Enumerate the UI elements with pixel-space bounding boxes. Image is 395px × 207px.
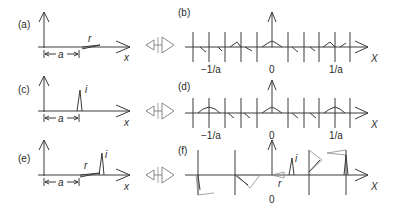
tick-pos-label: 1/a (329, 130, 343, 141)
panel-d-label: (d) (178, 81, 190, 92)
panel-d: (d) −1/a 0 1/a X (178, 80, 378, 141)
i-label: i (105, 149, 108, 160)
a-label: a (58, 49, 64, 60)
fourier-transform-pair-icon (146, 103, 174, 119)
panel-b: (b) −1/a 0 1/a X (178, 7, 378, 75)
x-label: x (123, 181, 130, 192)
r-label: r (88, 33, 92, 44)
x-label: x (123, 117, 130, 128)
panel-f: (f) r i 0 X (178, 140, 378, 205)
panel-e: (e) r i a x (18, 140, 130, 192)
panel-f-label: (f) (178, 145, 187, 156)
fourier-transform-pair-icon (146, 37, 174, 53)
X-label: X (370, 119, 378, 130)
tick-zero-label: 0 (269, 64, 275, 75)
tick-pos-label: 1/a (329, 64, 343, 75)
fourier-diagram: (a) r a x (b) (0, 0, 395, 207)
fourier-transform-pair-icon (146, 167, 174, 183)
x-label: x (123, 52, 130, 63)
r-label: r (84, 160, 88, 171)
panel-b-label: (b) (178, 7, 190, 18)
i-peak-icon (99, 153, 104, 175)
panel-a: (a) r a x (18, 12, 130, 63)
tick-zero-label: 0 (269, 194, 275, 205)
i-label: i (85, 84, 88, 95)
i-peak-icon (289, 158, 294, 175)
X-label: X (370, 53, 378, 64)
tick-neg-label: −1/a (201, 130, 221, 141)
panel-a-label: (a) (18, 19, 30, 30)
panel-e-label: (e) (18, 153, 30, 164)
i-peak-icon (77, 90, 82, 111)
r-label: r (278, 178, 282, 189)
i-label: i (295, 153, 298, 164)
tick-neg-label: −1/a (201, 64, 221, 75)
X-label: X (370, 181, 378, 192)
panel-c: (c) i a x (18, 76, 130, 128)
panel-c-label: (c) (18, 84, 30, 95)
a-label: a (58, 113, 64, 124)
a-label: a (58, 177, 64, 188)
